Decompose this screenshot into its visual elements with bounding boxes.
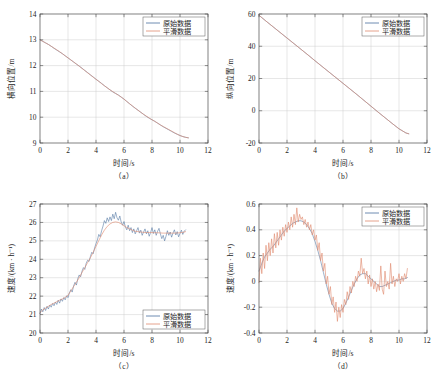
- chart-panel-b: 024681012-200204060时间/s（b）纵向位置/m原始数据平滑数据: [219, 0, 437, 189]
- panel-caption-d: （d）: [333, 362, 353, 371]
- y-tick-label: 9: [33, 139, 37, 148]
- y-tick-label: 27: [29, 200, 37, 209]
- y-tick-label: 0: [252, 106, 256, 115]
- chart-panel-c: 0246810122021222324252627时间/s（c）速度/(km ·…: [0, 190, 218, 379]
- x-axis-title-d: 时间/s: [332, 348, 353, 358]
- x-tick-label: 12: [204, 146, 212, 155]
- x-tick-label: 0: [38, 146, 42, 155]
- y-tick-label: 11: [29, 87, 36, 96]
- chart-panel-a: 02468101291011121314时间/s（a）横向位置/m原始数据平滑数…: [0, 0, 218, 189]
- x-axis-title-c: 时间/s: [113, 348, 134, 358]
- x-tick-label: 8: [369, 336, 373, 345]
- y-tick-label: 60: [248, 10, 256, 19]
- panel-caption-c: （c）: [114, 362, 133, 371]
- x-tick-label: 2: [285, 146, 289, 155]
- plot-d: 024681012-0.4-0.200.20.40.6时间/s（d）速度/(km…: [219, 190, 437, 379]
- y-tick-label: 23: [29, 273, 37, 282]
- x-tick-label: 6: [341, 146, 345, 155]
- x-axis-title-a: 时间/s: [113, 158, 134, 168]
- x-tick-label: 4: [313, 336, 317, 345]
- x-tick-label: 8: [150, 146, 154, 155]
- legend-a: 原始数据平滑数据: [143, 17, 205, 36]
- panel-caption-b: （b）: [333, 172, 353, 181]
- y-tick-label: 40: [248, 42, 256, 51]
- legend-label-raw: 原始数据: [163, 19, 191, 28]
- y-axis-title-d: 速度/(km · h⁻¹): [225, 243, 235, 293]
- plot-c: 0246810122021222324252627时间/s（c）速度/(km ·…: [0, 190, 218, 379]
- y-tick-label: 22: [29, 292, 37, 301]
- x-tick-label: 4: [313, 146, 317, 155]
- x-tick-label: 2: [285, 336, 289, 345]
- x-tick-label: 12: [423, 336, 431, 345]
- y-tick-label: 14: [29, 10, 37, 19]
- y-tick-label: 20: [248, 74, 256, 83]
- x-tick-label: 4: [94, 146, 98, 155]
- legend-label-raw: 原始数据: [382, 19, 410, 28]
- legend-label-raw: 原始数据: [163, 312, 191, 321]
- legend-label-smooth: 平滑数据: [163, 27, 191, 36]
- x-tick-label: 10: [395, 146, 403, 155]
- y-tick-label: 0.6: [246, 200, 256, 209]
- y-tick-label: 0.4: [246, 225, 256, 234]
- y-axis-title-b: 纵向位置/m: [225, 58, 235, 98]
- x-tick-label: 12: [204, 336, 212, 345]
- x-tick-label: 8: [150, 336, 154, 345]
- y-tick-label: -20: [246, 139, 256, 148]
- y-tick-label: 0.2: [246, 251, 256, 260]
- y-tick-label: 26: [29, 218, 37, 227]
- y-tick-label: 24: [29, 255, 37, 264]
- legend-label-smooth: 平滑数据: [382, 217, 410, 226]
- legend-label-smooth: 平滑数据: [382, 27, 410, 36]
- y-tick-label: 25: [29, 236, 37, 245]
- y-tick-label: 0: [252, 277, 256, 286]
- x-tick-label: 10: [395, 336, 403, 345]
- x-tick-label: 12: [423, 146, 431, 155]
- plot-a: 02468101291011121314时间/s（a）横向位置/m原始数据平滑数…: [0, 0, 218, 189]
- x-tick-label: 0: [257, 336, 261, 345]
- figure-root: 02468101291011121314时间/s（a）横向位置/m原始数据平滑数…: [0, 0, 437, 379]
- panel-caption-a: （a）: [114, 172, 133, 181]
- x-tick-label: 4: [94, 336, 98, 345]
- x-tick-label: 0: [38, 336, 42, 345]
- x-tick-label: 6: [122, 336, 126, 345]
- x-tick-label: 6: [341, 336, 345, 345]
- x-tick-label: 10: [176, 336, 184, 345]
- legend-d: 原始数据平滑数据: [362, 207, 424, 226]
- y-tick-label: 12: [29, 61, 37, 70]
- x-tick-label: 8: [369, 146, 373, 155]
- y-tick-label: 13: [29, 35, 37, 44]
- x-tick-label: 0: [257, 146, 261, 155]
- y-tick-label: -0.2: [244, 303, 256, 312]
- plot-b: 024681012-200204060时间/s（b）纵向位置/m原始数据平滑数据: [219, 0, 437, 189]
- y-axis-title-a: 横向位置/m: [6, 58, 16, 98]
- legend-label-raw: 原始数据: [382, 209, 410, 218]
- y-axis-title-c: 速度/(km · h⁻¹): [6, 243, 16, 293]
- y-tick-label: -0.4: [244, 329, 256, 338]
- x-tick-label: 6: [122, 146, 126, 155]
- y-tick-label: 21: [29, 310, 37, 319]
- legend-label-smooth: 平滑数据: [163, 320, 191, 329]
- y-tick-label: 20: [29, 329, 37, 338]
- x-tick-label: 10: [176, 146, 184, 155]
- legend-b: 原始数据平滑数据: [362, 17, 424, 36]
- legend-c: 原始数据平滑数据: [143, 310, 205, 329]
- y-tick-label: 10: [29, 113, 37, 122]
- x-tick-label: 2: [66, 336, 70, 345]
- x-axis-title-b: 时间/s: [332, 158, 353, 168]
- chart-panel-d: 024681012-0.4-0.200.20.40.6时间/s（d）速度/(km…: [219, 190, 437, 379]
- x-tick-label: 2: [66, 146, 70, 155]
